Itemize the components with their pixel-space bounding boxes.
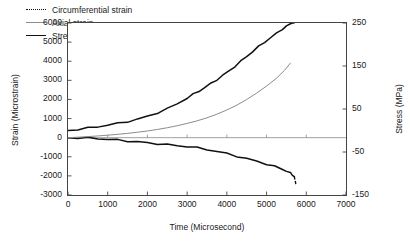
y-axis-left-tick-label: 1000 [28,113,62,123]
x-axis-tick-label: 4000 [207,199,247,209]
legend-item-circumferential-strain: Circumferential strain [25,3,205,16]
series-line-circumferential-strain [68,137,294,176]
y-axis-left-tick-label: -2000 [28,170,62,180]
plot-area [67,22,347,196]
x-axis-tick-label: 3000 [167,199,207,209]
x-axis-tick-label: 1000 [88,199,128,209]
y-axis-right-tick-label: -50 [352,146,386,156]
chart-figure: Circumferential strain Axial strain Stre… [0,0,410,247]
legend-label: Circumferential strain [52,4,132,16]
y-axis-left-tick-label: 4000 [28,55,62,65]
series-line-stress [68,23,294,131]
x-axis-tick-label: 0 [48,199,88,209]
y-axis-right-tick-label: 50 [352,103,386,113]
x-axis-tick-label: 6000 [286,199,326,209]
y-axis-left-tick-label: -1000 [28,151,62,161]
series-tail-circumferential-strain [294,177,296,184]
y-axis-left-tick-label: 0 [28,132,62,142]
x-axis-tick-label: 7000 [326,199,366,209]
x-axis-title: Time (Microsecond) [67,222,347,232]
y-axis-right-title: Stress (MPa) [394,59,404,159]
y-axis-left-tick-label: 6000 [28,17,62,27]
x-axis-tick-label: 2000 [127,199,167,209]
y-axis-left-tick-label: 2000 [28,93,62,103]
y-axis-left-title: Strain (Microstrain) [10,60,20,160]
y-axis-right-tick-label: -150 [352,189,386,199]
y-axis-right-tick-label: 150 [352,60,386,70]
y-axis-right-tick-label: 250 [352,17,386,27]
x-axis-tick-label: 5000 [247,199,287,209]
y-axis-left-tick-label: 5000 [28,36,62,46]
y-axis-left-tick-label: -3000 [28,189,62,199]
dotted-line-key-icon [25,4,47,16]
plot-canvas [68,23,346,195]
y-axis-left-tick-label: 3000 [28,74,62,84]
